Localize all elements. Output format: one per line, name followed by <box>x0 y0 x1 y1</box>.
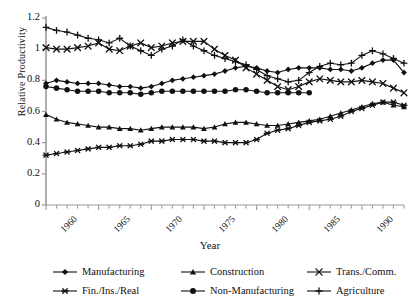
chart-legend: ManufacturingConstructionTrans./Comm.Fin… <box>52 262 392 300</box>
legend-item-non-manufacturing[interactable]: Non-Manufacturing <box>180 285 306 297</box>
plus-marker-icon <box>306 285 332 297</box>
legend-label: Trans./Comm. <box>336 266 396 277</box>
y-tick-label: 0.8 <box>0 73 40 84</box>
line-chart-plot <box>0 0 420 305</box>
series-construction <box>43 99 407 132</box>
y-tick-label: 1.2 <box>0 11 40 22</box>
y-tick-label: 0.2 <box>0 167 40 178</box>
legend-item-construction[interactable]: Construction <box>180 266 306 278</box>
legend-item-manufacturing[interactable]: Manufacturing <box>52 266 180 278</box>
y-tick-label: 0.4 <box>0 136 40 147</box>
legend-item-fin-ins-real[interactable]: Fin./Ins./Real <box>52 285 180 297</box>
y-axis-label: Relative Productivity <box>16 7 27 137</box>
legend-label: Construction <box>210 266 264 277</box>
y-tick-label: 0 <box>0 198 40 209</box>
legend-label: Fin./Ins./Real <box>82 285 139 296</box>
chart-figure: Relative Productivity Year 00.20.40.60.8… <box>0 0 420 305</box>
triangle-marker-icon <box>180 266 206 278</box>
diamond-marker-icon <box>52 266 78 278</box>
star-marker-icon <box>52 285 78 297</box>
legend-item-trans-comm[interactable]: Trans./Comm. <box>306 266 402 278</box>
legend-label: Agriculture <box>336 285 384 296</box>
x-marker-icon <box>306 266 332 278</box>
y-tick-label: 1 <box>0 42 40 53</box>
series-trans-comm <box>43 38 407 95</box>
y-tick-label: 0.6 <box>0 105 40 116</box>
legend-label: Non-Manufacturing <box>210 285 294 296</box>
circle-marker-icon <box>180 285 206 297</box>
legend-label: Manufacturing <box>82 266 144 277</box>
series-non-manufacturing <box>43 84 312 97</box>
x-axis-label: Year <box>0 239 420 251</box>
legend-item-agriculture[interactable]: Agriculture <box>306 285 402 297</box>
